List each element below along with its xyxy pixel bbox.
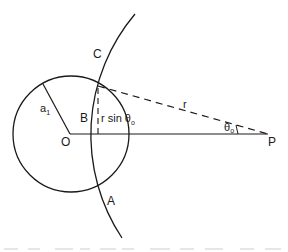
- label-C: C: [93, 47, 102, 61]
- label-r: r: [183, 98, 187, 110]
- geometry-diagram: C A B O P a1 r r sinθo θo: [0, 0, 288, 252]
- label-P: P: [268, 135, 276, 149]
- label-B: B: [80, 111, 88, 125]
- label-O: O: [61, 135, 70, 149]
- label-r-sin-theta: r sinθo: [101, 112, 135, 126]
- cropped-caption: [0, 246, 288, 252]
- label-A: A: [107, 194, 115, 208]
- label-theta-at-P: θo: [224, 121, 234, 134]
- label-a1: a1: [40, 102, 50, 116]
- angle-mark-theta-at-P: [236, 125, 238, 134]
